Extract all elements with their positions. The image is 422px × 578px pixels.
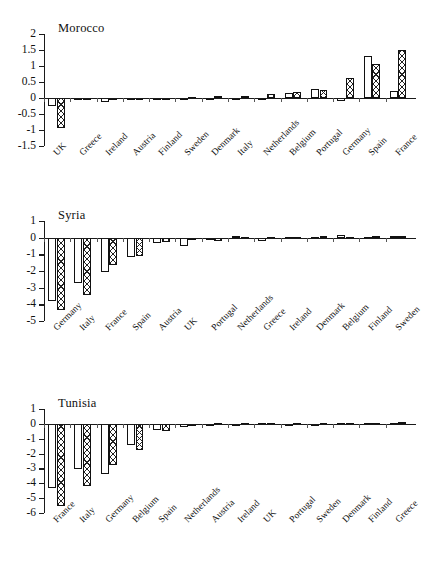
- x-tick-syria: [70, 238, 71, 242]
- y-tick-label-syria: -5: [26, 315, 36, 327]
- x-tick-syria: [386, 238, 387, 242]
- x-tick-syria: [202, 238, 203, 242]
- panel-title-morocco: Morocco: [58, 22, 105, 35]
- x-tick-syria: [359, 238, 360, 242]
- x-tick-tunisia: [202, 424, 203, 428]
- x-tick-syria: [123, 238, 124, 242]
- x-tick-tunisia: [386, 424, 387, 428]
- y-tick-morocco: [39, 34, 44, 35]
- y-tick-label-morocco: 0.5: [22, 76, 36, 88]
- y-tick-tunisia: [39, 498, 44, 499]
- y-tick-label-syria: 1: [30, 215, 36, 227]
- figure-page: Morocco 21.510.50-0.5-1-1.5 UKGreeceIrel…: [0, 0, 422, 578]
- y-tick-label-morocco: -1: [26, 124, 36, 136]
- y-tick-label-tunisia: -4: [26, 478, 36, 490]
- bar: [57, 98, 65, 128]
- bar: [364, 56, 372, 98]
- x-tick-tunisia: [359, 424, 360, 428]
- bar: [74, 424, 82, 469]
- x-tick-syria: [175, 238, 176, 242]
- x-tick-morocco: [333, 98, 334, 102]
- panel-title-syria: Syria: [58, 209, 85, 222]
- x-tick-morocco: [254, 98, 255, 102]
- y-tick-label-syria: -1: [26, 249, 36, 261]
- y-tick-label-syria: -4: [26, 299, 36, 311]
- bar: [101, 238, 109, 272]
- y-axis-morocco: [44, 34, 45, 146]
- x-tick-tunisia: [333, 424, 334, 428]
- y-tick-syria: [39, 254, 44, 255]
- x-tick-tunisia: [307, 424, 308, 428]
- bars-morocco: [44, 34, 412, 146]
- y-tick-label-tunisia: 1: [30, 403, 36, 415]
- y-tick-tunisia: [39, 513, 44, 514]
- panel-title-tunisia: Tunisia: [58, 397, 96, 410]
- y-tick-label-tunisia: -2: [26, 448, 36, 460]
- y-tick-label-morocco: -1.5: [18, 140, 36, 152]
- x-tick-morocco: [202, 98, 203, 102]
- chart-panel-tunisia: Tunisia 10-1-2-3-4-5-6 FranceItalyGerman…: [0, 393, 422, 578]
- y-tick-tunisia: [39, 468, 44, 469]
- y-tick-label-morocco: -0.5: [18, 108, 36, 120]
- y-tick-label-tunisia: -3: [26, 463, 36, 475]
- bar: [180, 238, 188, 246]
- x-tick-morocco: [70, 98, 71, 102]
- y-tick-label-tunisia: -5: [26, 492, 36, 504]
- y-tick-label-tunisia: 0: [30, 418, 36, 430]
- bar: [83, 238, 91, 296]
- y-tick-label-morocco: 0: [30, 92, 36, 104]
- x-tick-syria: [149, 238, 150, 242]
- y-tick-morocco: [39, 82, 44, 83]
- y-tick-label-tunisia: -1: [26, 433, 36, 445]
- x-tick-tunisia: [149, 424, 150, 428]
- x-tick-tunisia: [281, 424, 282, 428]
- bar: [48, 424, 56, 489]
- y-tick-label-syria: -3: [26, 282, 36, 294]
- y-tick-syria: [39, 271, 44, 272]
- x-tick-morocco: [175, 98, 176, 102]
- y-tick-tunisia: [39, 409, 44, 410]
- x-tick-morocco: [228, 98, 229, 102]
- y-axis-syria: [44, 221, 45, 321]
- y-tick-syria: [39, 304, 44, 305]
- bar: [127, 424, 135, 445]
- bar: [48, 238, 56, 301]
- x-tick-morocco: [149, 98, 150, 102]
- y-tick-tunisia: [39, 454, 44, 455]
- x-tick-tunisia: [70, 424, 71, 428]
- x-tick-morocco: [281, 98, 282, 102]
- x-tick-syria: [307, 238, 308, 242]
- bar: [390, 91, 398, 98]
- y-tick-label-morocco: 1.5: [22, 44, 36, 56]
- x-tick-morocco: [307, 98, 308, 102]
- x-tick-tunisia: [254, 424, 255, 428]
- bar: [136, 238, 144, 256]
- bar: [57, 238, 65, 311]
- y-tick-morocco: [39, 50, 44, 51]
- bar: [346, 78, 354, 98]
- y-tick-syria: [39, 321, 44, 322]
- x-tick-syria: [254, 238, 255, 242]
- bar: [109, 238, 117, 266]
- x-tick-tunisia: [44, 424, 45, 428]
- bar: [57, 424, 65, 506]
- x-tick-tunisia: [123, 424, 124, 428]
- x-tick-syria: [228, 238, 229, 242]
- x-tick-syria: [281, 238, 282, 242]
- x-tick-tunisia: [175, 424, 176, 428]
- bar: [83, 424, 91, 486]
- bar: [74, 238, 82, 284]
- x-tick-morocco: [386, 98, 387, 102]
- chart-panel-syria: Syria 10-1-2-3-4-5 GermanyItalyFranceSpa…: [0, 205, 422, 390]
- plot-area-morocco: 21.510.50-0.5-1-1.5: [44, 34, 412, 146]
- x-tick-tunisia: [97, 424, 98, 428]
- bar: [101, 424, 109, 475]
- x-tick-morocco: [359, 98, 360, 102]
- x-tick-syria: [44, 238, 45, 242]
- x-tick-tunisia: [228, 424, 229, 428]
- bar: [136, 424, 144, 450]
- bar: [127, 238, 135, 257]
- bar: [109, 424, 117, 465]
- x-tick-syria: [97, 238, 98, 242]
- bar: [311, 89, 319, 98]
